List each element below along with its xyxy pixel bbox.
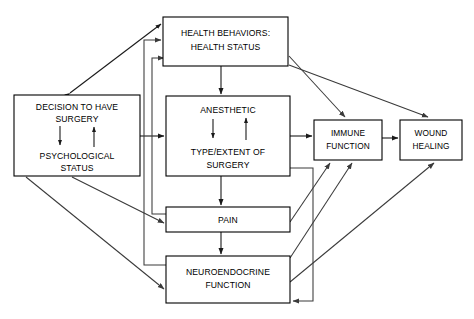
edge-neuroendocrine-wound	[290, 163, 434, 282]
node-decision-psychological[interactable]: DECISION TO HAVE SURGERY PSYCHOLOGICAL S…	[14, 95, 140, 176]
diagram-root: HEALTH BEHAVIORS: HEALTH STATUS DECISION…	[0, 0, 474, 319]
node-neuroendocrine-line1: NEUROENDOCRINE	[186, 267, 270, 277]
node-wound-line1: WOUND	[415, 128, 448, 138]
node-type-extent-line1: TYPE/EXTENT OF	[191, 147, 265, 157]
node-neuroendocrine[interactable]: NEUROENDOCRINE FUNCTION	[166, 256, 290, 303]
node-wound-healing-box[interactable]	[400, 120, 462, 160]
edge-decision-healthbehaviors	[70, 24, 161, 93]
node-health-behaviors-line2: HEALTH STATUS	[191, 42, 261, 52]
node-anesthetic-surgery[interactable]: ANESTHETIC TYPE/EXTENT OF SURGERY	[166, 96, 290, 176]
node-health-behaviors-line1: HEALTH BEHAVIORS:	[181, 28, 270, 38]
node-neuroendocrine-line2: FUNCTION	[205, 280, 250, 290]
node-psychological-line1: PSYCHOLOGICAL	[40, 151, 115, 161]
node-pain-label: PAIN	[218, 215, 238, 225]
node-decision-line1: DECISION TO HAVE	[36, 102, 118, 112]
node-health-behaviors[interactable]: HEALTH BEHAVIORS: HEALTH STATUS	[163, 17, 288, 66]
node-anesthetic-label: ANESTHETIC	[200, 105, 255, 115]
node-decision-line2: SURGERY	[55, 114, 98, 124]
node-immune-function[interactable]: IMMUNE FUNCTION	[314, 120, 382, 160]
diagram-canvas: HEALTH BEHAVIORS: HEALTH STATUS DECISION…	[0, 0, 474, 319]
edge-neuroendocrine-healthbehaviors	[144, 40, 166, 265]
node-immune-line2: FUNCTION	[326, 141, 370, 151]
edge-decision-neuroendocrine	[26, 177, 164, 289]
node-immune-line1: IMMUNE	[331, 128, 366, 138]
edge-healthbehaviors-immune	[289, 56, 345, 117]
edge-pain-immune	[290, 163, 330, 222]
node-wound-healing[interactable]: WOUND HEALING	[400, 120, 462, 160]
node-type-extent-line2: SURGERY	[206, 160, 249, 170]
edge-surgery-neuroendocrine	[290, 168, 313, 301]
edge-healthbehaviors-wound	[289, 65, 428, 117]
node-wound-line2: HEALING	[412, 141, 449, 151]
node-psychological-line2: STATUS	[60, 163, 93, 173]
edge-neuroendocrine-immune	[290, 163, 352, 258]
node-pain[interactable]: PAIN	[166, 207, 290, 232]
edge-decision-pain	[72, 177, 164, 223]
node-immune-function-box[interactable]	[314, 120, 382, 160]
